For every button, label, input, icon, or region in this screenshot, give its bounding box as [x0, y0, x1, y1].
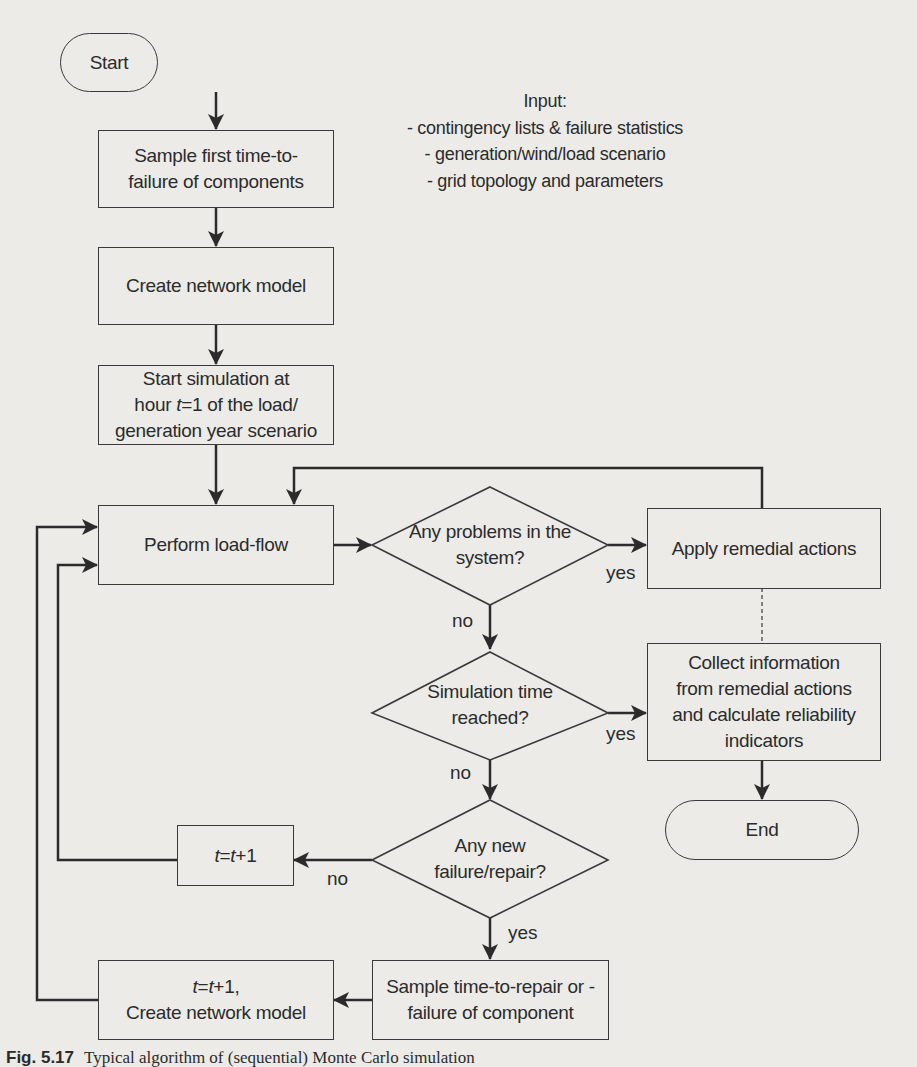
process-increment-time: t=t+1 — [177, 825, 294, 886]
decision-label: Simulation time reached? — [405, 679, 575, 731]
process-label-line: hour t=1 of the load/ — [134, 392, 297, 418]
figure-caption-text: Typical algorithm of (sequential) Monte … — [84, 1048, 475, 1067]
decision-new-failure: Any new failure/repair? — [405, 826, 575, 892]
edge-label-yes: yes — [606, 723, 636, 745]
process-label-line: generation year scenario — [115, 418, 317, 444]
process-apply-remedial-actions: Apply remedial actions — [647, 508, 881, 589]
process-create-network-model: Create network model — [98, 247, 334, 325]
process-perform-load-flow: Perform load-flow — [98, 505, 334, 585]
process-label: Collect information from remedial action… — [668, 650, 860, 754]
edge-label-no: no — [452, 610, 473, 632]
input-note: Input: - contingency lists & failure sta… — [375, 88, 715, 194]
edge-label-no: no — [450, 762, 471, 784]
process-label: Sample first time-to-failure of componen… — [113, 143, 319, 195]
process-increment-and-create-network: t=t+1, Create network model — [98, 960, 334, 1040]
input-item: - grid topology and parameters — [375, 168, 715, 195]
arrow-apply-feedback — [294, 468, 762, 508]
process-label: t=t+1 — [215, 843, 257, 869]
end-terminal: End — [665, 800, 859, 860]
process-label-line: Create network model — [126, 1000, 306, 1026]
process-label: Sample time-to-repair or -failure of com… — [381, 974, 600, 1026]
edge-label-no: no — [327, 868, 348, 890]
process-label-line: Start simulation at — [143, 366, 289, 392]
process-sample-repair: Sample time-to-repair or -failure of com… — [372, 960, 609, 1040]
decision-label: Any new failure/repair? — [405, 833, 575, 885]
decision-problems: Any problems in the system? — [400, 510, 580, 580]
figure-number: Fig. 5.17 — [6, 1048, 74, 1067]
start-terminal: Start — [60, 33, 158, 92]
process-label: Create network model — [126, 273, 306, 299]
process-sample-first-failure: Sample first time-to-failure of componen… — [98, 130, 334, 208]
input-item: - contingency lists & failure statistics — [375, 115, 715, 142]
start-label: Start — [90, 50, 129, 76]
arrow-increment-loop — [58, 565, 177, 860]
edge-label-yes: yes — [606, 562, 636, 584]
figure-caption: Fig. 5.17Typical algorithm of (sequentia… — [6, 1048, 475, 1067]
process-label: Perform load-flow — [144, 532, 288, 558]
process-collect-information: Collect information from remedial action… — [647, 643, 881, 761]
input-note-title: Input: — [375, 88, 715, 115]
arrow-outer-loop — [37, 527, 98, 1000]
edge-label-yes: yes — [508, 922, 538, 944]
process-label: Apply remedial actions — [672, 536, 857, 562]
process-start-simulation: Start simulation at hour t=1 of the load… — [98, 365, 334, 445]
input-item: - generation/wind/load scenario — [375, 141, 715, 168]
process-label-line: t=t+1, — [193, 974, 240, 1000]
end-label: End — [746, 817, 779, 843]
decision-label: Any problems in the system? — [400, 519, 580, 571]
decision-time-reached: Simulation time reached? — [405, 673, 575, 737]
